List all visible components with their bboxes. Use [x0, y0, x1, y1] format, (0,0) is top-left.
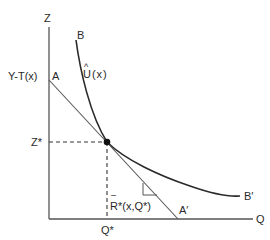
slope-label: R*(x,Q*) [110, 200, 151, 212]
line-start-label: A [52, 70, 60, 82]
slope-bar: – [111, 190, 116, 200]
indifference-curve [76, 40, 240, 196]
curve-end-label: B′ [244, 190, 253, 202]
q-axis-label: Q [256, 213, 265, 225]
z-star-label: Z* [31, 136, 43, 148]
diagram-canvas: Z Q B B′ ^ U(x) A A′ Y-T(x) Z* Q* – R*(x… [0, 0, 270, 240]
indifference-diagram: Z Q B B′ ^ U(x) A A′ Y-T(x) Z* Q* – R*(x… [0, 0, 270, 240]
line-end-label: A′ [179, 204, 188, 216]
curve-start-label: B [77, 29, 84, 41]
intercept-label: Y-T(x) [8, 70, 38, 82]
q-star-label: Q* [101, 224, 115, 236]
z-axis-label: Z [44, 12, 51, 24]
tangency-point [104, 139, 111, 146]
curve-name-label: U(x) [83, 68, 108, 80]
